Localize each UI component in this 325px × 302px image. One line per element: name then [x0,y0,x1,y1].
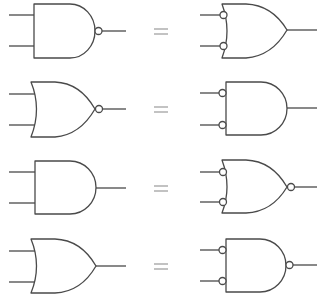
output-inversion-bubble [286,262,293,269]
output-inversion-bubble [96,106,103,113]
row-3 [9,160,317,214]
equals-sign [154,107,168,112]
or-body [222,160,287,213]
output-inversion-bubble [288,184,295,191]
output-inversion-bubble [95,28,102,35]
equals-sign [154,264,168,269]
input-inversion-bubble-a [219,90,226,97]
input-inversion-bubble-b [220,199,227,206]
or-gate-inverted-inputs-symbol [200,4,317,58]
row-2 [9,82,317,137]
or-gate-symbol [9,239,126,293]
input-inversion-bubble-b [219,122,226,129]
nand-gate-inverted-inputs-symbol [200,239,317,292]
and-gate-inverted-inputs-symbol [200,82,317,135]
nor-gate-inverted-inputs-symbol [200,160,317,213]
and-body [226,82,287,135]
row-1 [9,4,317,58]
or-body [222,4,287,58]
nor-gate-symbol [9,82,126,137]
or-body [31,239,96,293]
nand-gate-symbol [9,4,126,58]
and-gate-symbol [9,161,126,214]
or-body [31,82,95,137]
row-4 [9,239,317,293]
input-inversion-bubble-b [219,278,226,285]
and-body [35,161,96,214]
input-inversion-bubble-a [219,247,226,254]
equals-sign [154,186,168,191]
input-inversion-bubble-a [220,169,227,176]
gate-equivalence-diagram: De Morgan gate equivalences [0,0,325,302]
and-body [34,4,95,58]
input-inversion-bubble-b [220,43,227,50]
input-inversion-bubble-a [220,12,227,19]
equals-sign [154,29,168,34]
and-body [226,239,286,292]
